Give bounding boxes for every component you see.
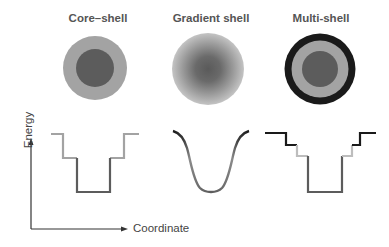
core-shell-particle	[63, 36, 127, 100]
axes	[29, 138, 129, 232]
y-axis-label: Energy	[22, 112, 34, 148]
core-shell-energy-profile	[51, 134, 139, 192]
gradient-shell-energy-profile	[173, 131, 249, 192]
diagram-canvas	[0, 0, 389, 247]
core-circle	[302, 51, 338, 87]
core-circle	[76, 49, 114, 87]
gradient-shell-particle	[172, 33, 244, 105]
multi-shell-energy-profile	[265, 133, 376, 192]
gradient-circle	[172, 33, 244, 105]
multi-shell-particle	[285, 34, 356, 105]
x-axis-arrow-icon	[121, 227, 128, 232]
x-axis-label: Coordinate	[133, 222, 189, 234]
